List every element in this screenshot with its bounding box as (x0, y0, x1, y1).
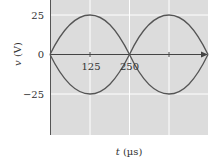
y-tick-0: 0 (38, 49, 44, 60)
y-tick-neg25: −25 (23, 89, 44, 100)
y-tick-25: 25 (31, 10, 44, 21)
x-tick-250: 250 (120, 61, 139, 72)
voltage-time-chart: 25 0 −25 125 250 v (V) t (µs) (0, 0, 222, 162)
x-tick-125: 125 (81, 61, 100, 72)
y-axis-label: v (V) (12, 42, 23, 66)
svg-text:v (V): v (V) (12, 42, 23, 66)
x-axis-label: t (µs) (116, 146, 143, 157)
